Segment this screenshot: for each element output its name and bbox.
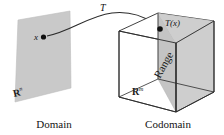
transformation-label: T — [100, 2, 107, 13]
domain-caption: Domain — [36, 118, 72, 130]
domain-point-dot-icon — [41, 34, 46, 39]
domain-plane-icon — [15, 11, 71, 102]
codomain-caption: Codomain — [145, 118, 191, 130]
codomain-space-exponent: m — [139, 86, 144, 92]
domain-point-label: x — [33, 32, 38, 42]
codomain-point-dot-icon — [157, 26, 163, 32]
codomain-point-label: T(x) — [165, 18, 180, 28]
domain-plane-group: R n x — [12, 11, 71, 102]
transformation-figure: R n x T — [0, 0, 224, 135]
cube-left-face — [119, 31, 176, 112]
figure-canvas: R n x T — [0, 0, 224, 135]
codomain-cube-group: T(x) Range R m — [119, 13, 214, 112]
